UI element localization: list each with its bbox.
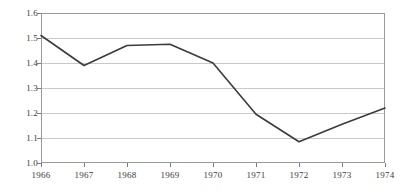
x-tick-label-1971: 1971 <box>236 170 276 180</box>
line-chart: 1.6 1.5 1.4 1.3 1.2 1.1 1.0 1966 1967 19… <box>0 0 414 192</box>
data-series-layer <box>41 13 385 163</box>
y-tick-label-1-4: 1.4 <box>4 59 38 68</box>
series-line-1 <box>41 36 385 142</box>
y-tick-mark-1-2 <box>37 113 41 114</box>
y-tick-mark-1-6 <box>37 13 41 14</box>
y-tick-mark-1-4 <box>37 63 41 64</box>
x-tick-mark-1968 <box>127 163 128 167</box>
x-tick-mark-1972 <box>299 163 300 167</box>
x-tick-label-1973: 1973 <box>322 170 362 180</box>
x-tick-label-1968: 1968 <box>107 170 147 180</box>
y-tick-mark-1-5 <box>37 38 41 39</box>
x-tick-mark-1973 <box>342 163 343 167</box>
x-tick-label-1970: 1970 <box>193 170 233 180</box>
y-tick-mark-1-1 <box>37 138 41 139</box>
y-tick-label-1-2: 1.2 <box>4 109 38 118</box>
x-tick-label-1974: 1974 <box>365 170 405 180</box>
x-tick-mark-1969 <box>170 163 171 167</box>
y-axis: 1.6 1.5 1.4 1.3 1.2 1.1 1.0 <box>0 0 38 192</box>
x-tick-label-1966: 1966 <box>21 170 61 180</box>
y-tick-label-1-5: 1.5 <box>4 34 38 43</box>
y-tick-mark-1-3 <box>37 88 41 89</box>
y-tick-label-1-0: 1.0 <box>4 159 38 168</box>
x-tick-mark-1967 <box>84 163 85 167</box>
x-tick-mark-1966 <box>41 163 42 167</box>
y-tick-label-1-6: 1.6 <box>4 9 38 18</box>
x-tick-label-1969: 1969 <box>150 170 190 180</box>
y-tick-label-1-3: 1.3 <box>4 84 38 93</box>
x-tick-mark-1971 <box>256 163 257 167</box>
y-tick-label-1-1: 1.1 <box>4 134 38 143</box>
x-tick-mark-1974 <box>385 163 386 167</box>
x-tick-label-1967: 1967 <box>64 170 104 180</box>
x-tick-mark-1970 <box>213 163 214 167</box>
x-tick-label-1972: 1972 <box>279 170 319 180</box>
